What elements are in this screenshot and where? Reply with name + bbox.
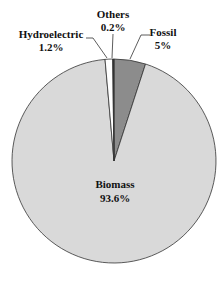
label-hydroelectric-value: 1.2%: [39, 41, 64, 53]
leader-line-others: [112, 34, 113, 58]
label-fossil-value: 5%: [155, 39, 172, 51]
pie-slices: [12, 59, 216, 263]
pie-chart: Others 0.2% Fossil 5% Hydroelectric 1.2%…: [0, 0, 224, 281]
leader-line-hydroelectric: [86, 38, 107, 58]
label-others-name: Others: [97, 8, 130, 20]
label-fossil-name: Fossil: [150, 26, 177, 38]
label-biomass-value: 93.6%: [100, 192, 130, 204]
label-hydroelectric-name: Hydroelectric: [19, 28, 84, 40]
leader-line-fossil: [130, 35, 150, 59]
label-biomass-name: Biomass: [95, 178, 135, 190]
label-others-value: 0.2%: [101, 21, 126, 33]
